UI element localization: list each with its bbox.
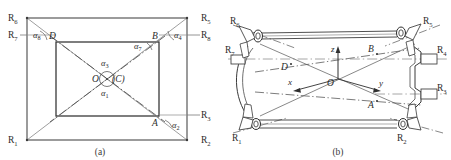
label-r6-sub: 6 — [14, 18, 18, 25]
label-r1-b-sub: 1 — [238, 138, 241, 145]
bottom-link-bar — [259, 120, 397, 128]
label-r6-b: R6 — [230, 16, 240, 28]
panel-b-drawing: R6 R7 R1 R5 R4 R3 R2 D B A O x y z (b) — [225, 0, 451, 160]
label-r2-b: R2 — [397, 133, 407, 145]
caption-a: (a) — [95, 147, 106, 158]
label-r2-sub: 2 — [207, 140, 210, 147]
label-point-c-a: (C) — [112, 74, 125, 85]
caption-b: (b) — [332, 147, 343, 158]
label-alpha7: α7 — [134, 41, 142, 52]
axis-y-arrow — [373, 88, 381, 93]
point-marker-d-b — [290, 63, 292, 65]
joint-marker-r6 — [26, 17, 28, 19]
right-frame-profile-inner — [408, 50, 415, 106]
label-point-o-b: O — [327, 78, 334, 88]
label-point-d-a: D — [48, 31, 56, 41]
label-r7: R7 — [8, 30, 18, 42]
label-r6: R6 — [8, 13, 18, 25]
label-axis-z: z — [330, 44, 335, 54]
label-r3-b-sub: 3 — [443, 88, 447, 95]
axis-z-arrow — [336, 46, 341, 53]
label-alpha1-sub: 1 — [105, 92, 108, 99]
label-point-b-a: B — [152, 31, 158, 41]
panel-a-drawing: R6 R7 R1 R5 R8 R3 R2 R4 α8 α4 α2 α7 α3 α… — [0, 0, 225, 160]
label-r5-b: R5 — [423, 16, 433, 28]
panel-b-3d-mechanism: R6 R7 R1 R5 R4 R3 R2 D B A O x y z (b) — [225, 0, 451, 160]
label-alpha3-sub: 3 — [105, 62, 108, 69]
label-alpha4: α4 — [174, 30, 182, 41]
point-marker-a-b — [376, 100, 378, 102]
label-r1-b: R1 — [232, 133, 242, 145]
label-alpha3: α3 — [101, 58, 109, 69]
label-r2-b-sub: 2 — [403, 138, 406, 145]
label-point-b-b: B — [368, 44, 374, 54]
label-r1-sub: 1 — [14, 140, 17, 147]
figure-root: R6 R7 R1 R5 R8 R3 R2 R4 α8 α4 α2 α7 α3 α… — [0, 0, 451, 160]
label-alpha1: α1 — [101, 88, 109, 99]
label-r3-sub: 3 — [207, 115, 211, 122]
label-axis-y: y — [378, 78, 383, 88]
axis-y-line — [338, 79, 377, 90]
panel-a-planar-schematic: R6 R7 R1 R5 R8 R3 R2 R4 α8 α4 α2 α7 α3 α… — [0, 0, 225, 160]
joint-marker-r5 — [186, 17, 188, 19]
joint-marker-r2 — [186, 139, 188, 141]
right-frame-profile-outer — [413, 46, 421, 110]
point-marker-b-b — [376, 53, 378, 55]
label-alpha4-sub: 4 — [178, 34, 181, 41]
label-r4-b: R4 — [437, 45, 447, 57]
label-point-a-b: A — [367, 100, 374, 110]
joint-hub-r2 — [399, 104, 422, 130]
label-r2: R2 — [201, 135, 211, 147]
label-alpha2-sub: 2 — [176, 124, 179, 131]
joint-hub-r6 — [239, 26, 263, 58]
joint-marker-r1 — [26, 139, 28, 141]
label-r5: R5 — [201, 13, 211, 25]
label-r7-sub: 7 — [14, 35, 18, 42]
top-link-bar — [261, 31, 397, 39]
label-point-d-b: D — [280, 62, 288, 72]
label-alpha8-sub: 8 — [37, 34, 40, 41]
label-point-a-a: A — [151, 118, 158, 128]
label-r1: R1 — [8, 135, 18, 147]
label-r3-b: R3 — [437, 83, 447, 95]
right-bracket-tab-r4 — [421, 54, 437, 64]
label-r3: R3 — [201, 110, 211, 122]
label-alpha7-sub: 7 — [138, 45, 141, 52]
label-r5-b-sub: 5 — [429, 21, 433, 28]
right-bracket-tab-r3 — [421, 89, 437, 99]
label-r7-b: R7 — [225, 45, 235, 57]
axis-x-arrow — [293, 88, 301, 93]
label-r8: R8 — [201, 30, 211, 42]
label-alpha2: α2 — [172, 120, 180, 131]
label-r8-sub: 8 — [207, 35, 211, 42]
label-r4-b-sub: 4 — [443, 50, 447, 57]
label-axis-x: x — [287, 77, 292, 87]
center-node-dot — [106, 78, 108, 80]
label-point-o-a: O — [92, 74, 99, 84]
label-alpha8: α8 — [33, 30, 41, 41]
label-r5-sub: 5 — [207, 18, 211, 25]
